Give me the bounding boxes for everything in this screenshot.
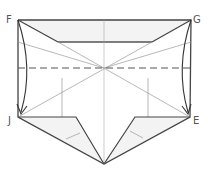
diag-3 [18, 42, 104, 68]
label-j: J [8, 116, 11, 126]
top-flap [18, 20, 191, 42]
label-g: G [193, 15, 201, 25]
label-e: E [193, 116, 199, 126]
origami-diagram [0, 0, 209, 174]
diag-1 [58, 42, 190, 117]
arrow-left-curve [18, 20, 27, 112]
label-f: F [6, 15, 12, 25]
diag-4 [104, 42, 191, 68]
diag-2 [18, 42, 152, 117]
